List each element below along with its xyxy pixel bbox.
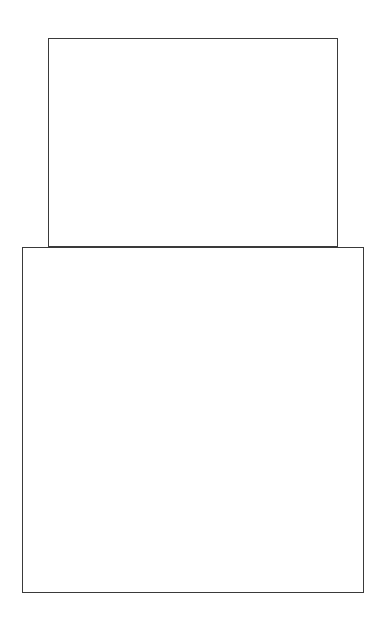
bottom-rectangle bbox=[22, 247, 364, 593]
top-rectangle bbox=[48, 38, 338, 247]
